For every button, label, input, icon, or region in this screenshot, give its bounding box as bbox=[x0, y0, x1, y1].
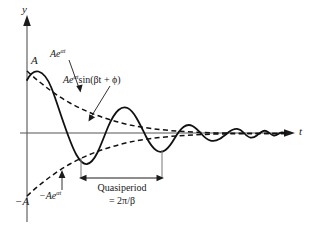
quasiperiod-word-label: Quasiperiod bbox=[82, 183, 162, 193]
amplitude-positive-label: A bbox=[31, 55, 38, 66]
t-axis bbox=[20, 129, 295, 137]
upper-envelope-label: Aeαt bbox=[50, 48, 66, 59]
quasiperiod-markers bbox=[81, 150, 162, 178]
figure-canvas bbox=[0, 0, 316, 249]
y-axis bbox=[23, 15, 31, 222]
solution-rest: sin(βt + ϕ) bbox=[79, 74, 121, 85]
quasiperiod-value-label: = 2π/β bbox=[82, 196, 162, 206]
y-axis-label: y bbox=[22, 4, 27, 15]
damped-oscillation-figure bbox=[0, 0, 316, 249]
solution-curve-label: Aeαtsin(βt + ϕ) bbox=[63, 74, 121, 85]
amplitude-negative-label: −A bbox=[15, 196, 29, 207]
quasiperiod-arrow bbox=[79, 175, 164, 181]
lower-envelope-exponent: αt bbox=[56, 189, 61, 196]
solution-base: Ae bbox=[63, 74, 74, 85]
upper-envelope-exponent: αt bbox=[61, 47, 66, 54]
upper-envelope-base: Ae bbox=[50, 48, 61, 59]
t-axis-label: t bbox=[299, 126, 302, 137]
lower-envelope-base: −Ae bbox=[39, 190, 56, 201]
lower-envelope-label: −Aeαt bbox=[39, 190, 61, 201]
lower-envelope-pointer bbox=[59, 170, 66, 190]
